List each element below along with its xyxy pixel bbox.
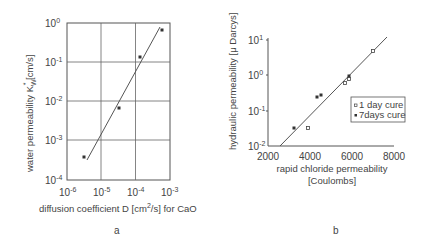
data-point [83,156,86,159]
ytick-a: 10-2 [45,95,62,107]
open-square-icon [355,104,358,107]
xtick-b: 6000 [341,151,364,162]
data-point-1day [372,50,375,53]
ytick-a: 10-4 [45,174,62,186]
fit-line-b [280,37,387,146]
xtick-b: 8000 [383,151,406,162]
data-point-1day [348,78,351,81]
ylabel-b: hydraulic permeability [μ Darcys] [227,13,238,150]
ytick-b: 10-1 [248,105,265,117]
legend-item-7days: 7days cure [359,109,405,120]
xtick-a: 10-3 [161,186,178,198]
xtick-a: 10-6 [59,186,76,198]
chart-b: 101 100 10-1 10-2 2000 4000 6000 8000 ra… [227,13,406,236]
plot-a-frame [67,23,170,180]
data-point-7days [348,75,351,78]
xtick-b: 4000 [299,151,322,162]
legend-b: 1 day cure 7days cure [351,97,405,122]
data-point-1day [344,82,347,85]
data-point-1day [307,127,310,130]
panel-label-a: a [114,225,120,236]
data-point [118,107,121,110]
ytick-a: 100 [45,17,60,29]
data-point-7days [293,127,296,130]
ylabel-a: water permeability KW* [cm/s] [22,55,37,173]
filled-square-icon [355,114,358,117]
xlabel-b-line2: [Coulombs] [308,175,356,186]
xtick-a: 10-5 [93,186,110,198]
ytick-a: 10-3 [45,134,62,146]
ytick-a: 10-1 [45,56,62,68]
xtick-b: 2000 [257,151,280,162]
xlabel-b-line1: rapid chloride permeability [277,163,388,174]
panel-label-b: b [333,225,339,236]
data-point [161,29,164,32]
data-point-7days [320,94,323,97]
ytick-b: 101 [248,34,263,46]
chart-a: 100 10-1 10-2 10-3 10-4 10-6 10-5 10-4 1… [22,17,197,236]
xlabel-a: diffusion coefficient D [cm2/s] for CaO [39,202,197,214]
figure: 100 10-1 10-2 10-3 10-4 10-6 10-5 10-4 1… [0,0,426,242]
ytick-b: 100 [248,69,263,81]
data-point [139,56,142,59]
data-point-7days [316,96,319,99]
xtick-a: 10-4 [127,186,144,198]
